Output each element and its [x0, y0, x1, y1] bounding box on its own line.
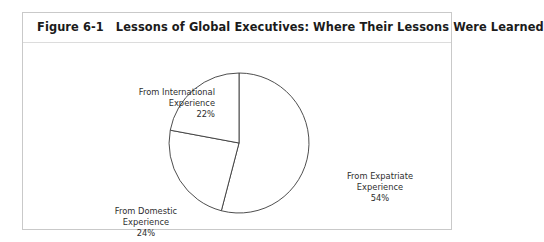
pie-label-expatriate: From Expatriate Experience 54% — [328, 171, 432, 205]
pie-label-domestic-value: 24% — [91, 228, 201, 239]
figure-container: Figure 6-1Lessons of Global Executives: … — [22, 12, 452, 230]
pie-label-domestic: From Domestic Experience 24% — [91, 206, 201, 240]
figure-title: Figure 6-1Lessons of Global Executives: … — [37, 20, 544, 34]
figure-header: Figure 6-1Lessons of Global Executives: … — [23, 13, 451, 43]
pie-label-expatriate-line1: From Expatriate — [328, 171, 432, 182]
pie-label-international: From International Experience 22% — [109, 87, 215, 121]
pie-label-international-line1: From International — [109, 87, 215, 98]
pie-label-international-value: 22% — [109, 109, 215, 120]
pie-chart: From International Experience 22% From D… — [23, 43, 451, 230]
pie-label-expatriate-value: 54% — [328, 193, 432, 204]
pie-label-domestic-line1: From Domestic — [91, 206, 201, 217]
figure-title-text: Lessons of Global Executives: Where Thei… — [116, 20, 544, 34]
pie-label-international-line2: Experience — [109, 98, 215, 109]
figure-number: Figure 6-1 — [37, 20, 104, 34]
pie-label-expatriate-line2: Experience — [328, 182, 432, 193]
pie-label-domestic-line2: Experience — [91, 217, 201, 228]
